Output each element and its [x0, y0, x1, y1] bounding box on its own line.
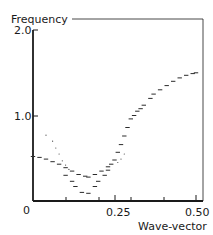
data-point-dot — [55, 147, 56, 148]
data-point-dot — [124, 153, 125, 154]
x-tick-label-050: 0.50 — [185, 206, 210, 219]
series-upper-branch — [31, 73, 198, 177]
data-point-dot — [45, 135, 46, 136]
data-point-dot — [117, 162, 118, 163]
data-point-dot — [65, 165, 66, 166]
y-tick-label-1: 1.0 — [14, 110, 32, 123]
data-point-dot — [52, 141, 53, 142]
data-point-dot — [62, 160, 63, 161]
data-series — [31, 73, 198, 194]
data-point-dot — [59, 153, 60, 154]
x-axis-title: Wave-vector — [138, 220, 207, 233]
plot-frame — [33, 19, 203, 201]
origin-label: 0 — [23, 204, 30, 217]
dispersion-chart: Frequency 2.0 1.0 0 0.25 0.50 Wave-vecto… — [0, 0, 213, 235]
y-tick-label-2: 2.0 — [14, 24, 32, 37]
series-lower-branch — [63, 164, 113, 193]
data-point-dot — [68, 169, 69, 170]
x-tick-label-025: 0.25 — [106, 206, 131, 219]
data-point-dot — [120, 159, 121, 160]
